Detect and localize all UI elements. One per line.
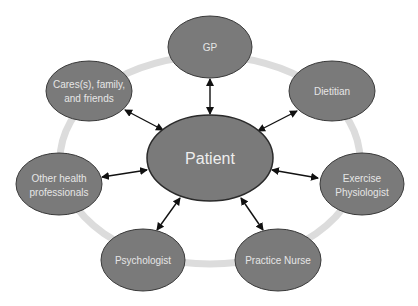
dietitian-node: Dietitian (289, 61, 375, 121)
carers-label-line1: Cares(s), family, (53, 79, 125, 90)
psychologist-label: Psychologist (115, 255, 171, 266)
patient-label: Patient (185, 150, 235, 167)
exercise-label-line2: Physiologist (335, 187, 389, 198)
arrow-carers (125, 110, 163, 130)
arrow-psychologist (157, 198, 180, 230)
patient-node: Patient (147, 115, 273, 201)
other-label-line2: professionals (30, 187, 89, 198)
care-team-diagram: Patient GP Cares(s), family, and friends… (0, 0, 418, 306)
other-label-line1: Other health (31, 173, 86, 184)
psychologist-node: Psychologist (101, 229, 185, 291)
gp-node: GP (168, 16, 252, 78)
gp-label: GP (203, 42, 218, 53)
exercise-physiologist-node: Exercise Physiologist (320, 153, 404, 215)
exercise-label-line1: Exercise (343, 173, 382, 184)
arrow-exercise (272, 170, 318, 178)
practice-nurse-label: Practice Nurse (245, 255, 311, 266)
other-health-professionals-node: Other health professionals (16, 153, 102, 215)
arrow-other (102, 170, 147, 177)
practice-nurse-node: Practice Nurse (235, 229, 321, 291)
arrow-nurse (241, 198, 263, 230)
carers-family-friends-node: Cares(s), family, and friends (46, 61, 132, 121)
dietitian-label: Dietitian (314, 86, 350, 97)
carers-label-line2: and friends (64, 93, 113, 104)
arrow-dietitian (258, 111, 297, 131)
